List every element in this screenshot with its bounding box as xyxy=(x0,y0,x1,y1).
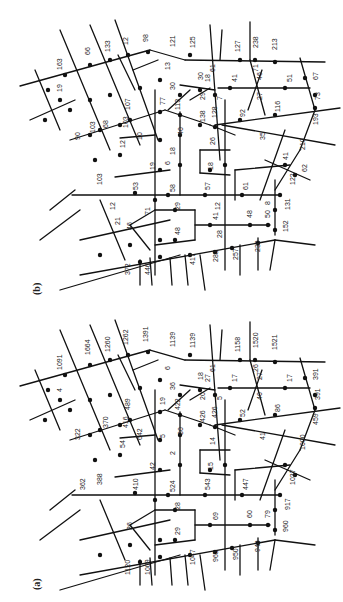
edge-value-label: 6 xyxy=(164,366,171,370)
edge-value-label: 960 xyxy=(282,520,289,532)
edge-value-label: 288 xyxy=(212,250,219,262)
edge-value-label: 948 xyxy=(254,540,261,552)
street-edge xyxy=(80,240,275,275)
edge-value-label: 5 xyxy=(216,396,223,400)
network-node xyxy=(248,523,252,527)
network-node xyxy=(158,168,162,172)
street-edge xyxy=(275,540,315,545)
edge-value-label: 230 xyxy=(254,240,261,252)
network-node xyxy=(178,163,182,167)
edge-value-label: 40 xyxy=(177,127,184,135)
street-edge xyxy=(200,555,205,590)
edge-value-label: 8 xyxy=(264,201,271,205)
network-node xyxy=(43,118,47,122)
edge-value-label: 67 xyxy=(312,72,319,80)
edge-value-label: 51 xyxy=(286,74,293,82)
edge-value-label: 524 xyxy=(169,480,176,492)
edge-value-label: 27 xyxy=(256,92,263,100)
network-node xyxy=(188,353,192,357)
edge-value-label: 459 xyxy=(312,413,319,425)
edge-value-label: 29 xyxy=(199,92,206,100)
edge-value-label: 12 xyxy=(214,202,221,210)
network-node xyxy=(198,123,202,127)
edge-value-label: 446 xyxy=(144,263,151,275)
network-node xyxy=(158,555,162,559)
edge-value-label: 26 xyxy=(252,364,259,372)
network-node xyxy=(108,358,112,362)
edge-value-label: 391 xyxy=(314,388,321,400)
edge-value-label: 21 xyxy=(114,217,121,225)
street-edge xyxy=(150,50,185,60)
street-edge xyxy=(200,255,205,290)
network-node xyxy=(88,363,92,367)
edge-value-label: 71 xyxy=(252,64,259,72)
edge-value-label: 61 xyxy=(209,364,216,372)
street-edge xyxy=(270,540,275,570)
network-node xyxy=(166,193,170,197)
street-edge xyxy=(118,355,135,390)
street-edge xyxy=(133,360,158,370)
network-node xyxy=(273,413,277,417)
network-node xyxy=(213,425,217,429)
edge-value-label: 36 xyxy=(126,522,133,530)
street-edge xyxy=(150,350,185,360)
edge-value-label: 46 xyxy=(126,222,133,230)
edge-value-label: 121 xyxy=(169,35,176,47)
edge-value-label: 28 xyxy=(216,230,223,238)
edge-value-label: 362 xyxy=(79,478,86,490)
edge-value-label: 213 xyxy=(271,38,278,50)
edge-value-label: 103 xyxy=(122,116,129,128)
edge-value-label: 372 xyxy=(124,263,131,275)
edge-value-label: 128 xyxy=(211,106,218,118)
edge-value-label: 1120 xyxy=(124,560,131,575)
edge-value-label: 68 xyxy=(102,120,109,128)
edge-value-label: 50 xyxy=(264,210,271,218)
network-node xyxy=(63,73,67,77)
network-node xyxy=(238,418,242,422)
network-node xyxy=(223,463,227,467)
edge-value-label: 6 xyxy=(164,161,171,165)
edge-value-label: 58 xyxy=(169,184,176,192)
edge-value-label: 163 xyxy=(56,58,63,70)
panel-a-network: 1091166412601262139111391139115815201521… xyxy=(20,320,340,590)
edge-value-label: 53 xyxy=(132,182,139,190)
edge-value-label: 54 xyxy=(119,440,126,448)
street-edge xyxy=(40,210,80,240)
edge-value-label: 41 xyxy=(212,212,219,220)
edge-value-label: 1139 xyxy=(169,332,176,347)
street-edge xyxy=(50,490,75,510)
edge-value-label: 18 xyxy=(197,372,204,380)
panel-b-label: (b) xyxy=(31,283,43,295)
network-node xyxy=(93,158,97,162)
edge-value-label: 388 xyxy=(96,473,103,485)
network-node xyxy=(158,238,162,242)
network-node xyxy=(273,508,277,512)
edge-value-label: 41 xyxy=(231,74,238,82)
network-node xyxy=(313,106,317,110)
network-node xyxy=(58,98,62,102)
network-node xyxy=(203,493,207,497)
edge-value-label: 18 xyxy=(204,74,211,82)
network-node xyxy=(108,93,112,97)
network-node xyxy=(98,253,102,257)
edge-value-label: 210 xyxy=(299,138,306,150)
network-node xyxy=(158,255,162,259)
edge-value-label: 30 xyxy=(169,82,176,90)
street-edge xyxy=(170,558,172,585)
edge-value-label: 27 xyxy=(256,372,263,380)
network-node xyxy=(138,560,142,564)
edge-value-label: 103 xyxy=(96,173,103,185)
edge-value-label: 122 xyxy=(289,173,296,185)
network-node xyxy=(303,76,307,80)
edge-value-label: 19 xyxy=(159,397,166,405)
network-node xyxy=(303,376,307,380)
edge-value-label: 152 xyxy=(282,220,289,232)
network-node xyxy=(158,78,162,82)
network-node xyxy=(188,53,192,57)
network-node xyxy=(240,493,244,497)
edge-value-label: 29 xyxy=(174,527,181,535)
edge-value-label: 57 xyxy=(204,182,211,190)
street-edge xyxy=(60,255,180,290)
network-node xyxy=(46,88,50,92)
edge-value-label: 41 xyxy=(282,152,289,160)
